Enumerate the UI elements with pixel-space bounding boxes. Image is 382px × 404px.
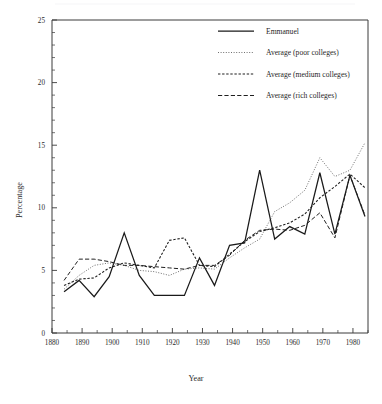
legend-label-1: Average (poor colleges) <box>266 48 339 57</box>
chart-legend: EmmanuelAverage (poor colleges)Average (… <box>218 27 350 101</box>
legend-label-3: Average (rich colleges) <box>266 91 337 100</box>
x-tick-label: 1910 <box>135 339 150 347</box>
y-axis-title: Percentage <box>15 182 24 218</box>
series-line-3 <box>64 175 365 280</box>
y-axis-ticks: 0510152025 <box>38 17 57 338</box>
x-tick-label: 1950 <box>255 339 270 347</box>
x-tick-label: 1880 <box>45 339 60 347</box>
x-tick-label: 1970 <box>316 339 331 347</box>
series-line-1 <box>64 143 365 289</box>
y-tick-label: 0 <box>41 330 45 338</box>
series-line-0 <box>64 170 365 296</box>
x-axis-title: Year <box>188 374 203 383</box>
x-tick-label: 1890 <box>75 339 90 347</box>
x-tick-label: 1980 <box>346 339 361 347</box>
y-tick-label: 15 <box>38 142 46 150</box>
x-tick-label: 1940 <box>225 339 240 347</box>
x-axis-ticks: 1880189019001910192019301940195019601970… <box>45 328 368 347</box>
y-tick-label: 25 <box>38 17 46 25</box>
legend-label-2: Average (medium colleges) <box>266 70 350 79</box>
x-tick-label: 1900 <box>105 339 120 347</box>
series-layer <box>64 143 365 297</box>
line-chart: 0510152025 18801890190019101920193019401… <box>0 0 382 404</box>
legend-label-0: Emmanuel <box>266 27 299 36</box>
y-tick-label: 5 <box>41 267 45 275</box>
series-line-2 <box>64 174 365 285</box>
x-tick-label: 1930 <box>195 339 210 347</box>
y-tick-label: 10 <box>38 204 46 212</box>
scan-artifact <box>55 3 355 5</box>
x-tick-label: 1920 <box>165 339 180 347</box>
y-tick-label: 20 <box>38 79 46 87</box>
x-tick-label: 1960 <box>286 339 301 347</box>
chart-figure: 0510152025 18801890190019101920193019401… <box>0 0 382 404</box>
